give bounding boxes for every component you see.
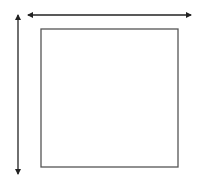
square-dimension-diagram xyxy=(0,0,198,184)
square-shape xyxy=(41,29,178,167)
